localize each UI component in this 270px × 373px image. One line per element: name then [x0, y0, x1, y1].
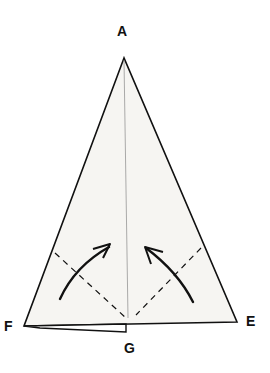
- paper-triangle: [24, 58, 237, 326]
- folded-flap: [24, 324, 126, 332]
- origami-diagram: [0, 0, 270, 373]
- label-f: F: [4, 319, 13, 333]
- label-a: A: [117, 24, 127, 38]
- label-g: G: [124, 341, 135, 355]
- label-e: E: [246, 314, 255, 328]
